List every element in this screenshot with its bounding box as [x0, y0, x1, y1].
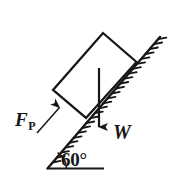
physics-diagram-figure: FP W 60°	[0, 0, 169, 185]
block-body	[53, 33, 137, 118]
applied-force-symbol: F	[15, 109, 28, 130]
weight-label: W	[113, 122, 131, 142]
incline-angle-label: 60°	[61, 150, 87, 169]
applied-force-subscript: P	[28, 119, 35, 133]
applied-force-label: FP	[15, 110, 36, 132]
applied-force-arrow	[37, 108, 60, 134]
